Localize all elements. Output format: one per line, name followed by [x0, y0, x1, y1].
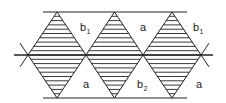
svg-text:b: b: [80, 21, 86, 33]
svg-text:a: a: [196, 78, 203, 90]
svg-text:1: 1: [200, 28, 204, 35]
svg-text:1: 1: [87, 28, 91, 35]
hatched-diamond-lattice-diagram: b1ab1ab2a: [0, 0, 226, 103]
region-label-bottom-2: b2: [137, 78, 148, 92]
region-label-bottom-1: a: [83, 78, 90, 90]
region-label-top-1: b1: [80, 21, 91, 35]
svg-text:a: a: [140, 21, 147, 33]
right-cross-extension: [201, 55, 209, 67]
region-label-top-3: b1: [193, 21, 204, 35]
region-label-bottom-3: a: [196, 78, 203, 90]
left-cross-extension: [20, 55, 28, 67]
svg-text:b: b: [193, 21, 199, 33]
right-cross-extension: [201, 43, 209, 55]
left-cross-extension: [20, 43, 28, 55]
svg-text:a: a: [83, 78, 90, 90]
svg-text:2: 2: [144, 85, 148, 92]
svg-text:b: b: [137, 78, 143, 90]
region-label-top-2: a: [140, 21, 147, 33]
